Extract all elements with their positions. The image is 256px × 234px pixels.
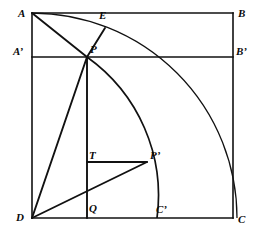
segment-a-to-p (32, 13, 87, 57)
label-point-B-prime: B’ (236, 46, 247, 57)
label-point-A-prime: A’ (13, 46, 23, 57)
inner-arc-p-to-c-prime (87, 57, 158, 218)
label-point-A: A (18, 8, 25, 19)
label-point-P: P (90, 44, 97, 55)
label-point-P-prime: P’ (150, 150, 160, 161)
geometry-canvas (0, 0, 256, 234)
label-point-C-prime: C’ (156, 204, 167, 215)
label-point-C: C (238, 214, 245, 225)
label-point-D: D (16, 212, 24, 223)
label-point-T: T (89, 150, 96, 161)
label-point-E: E (99, 10, 106, 21)
label-point-Q: Q (89, 203, 97, 214)
label-point-B: B (238, 8, 245, 19)
outer-quarter-arc (32, 13, 237, 218)
geometry-figure: A B C D A’ B’ C’ E P P’ T Q (0, 0, 256, 234)
segment-d-to-p (32, 57, 87, 218)
